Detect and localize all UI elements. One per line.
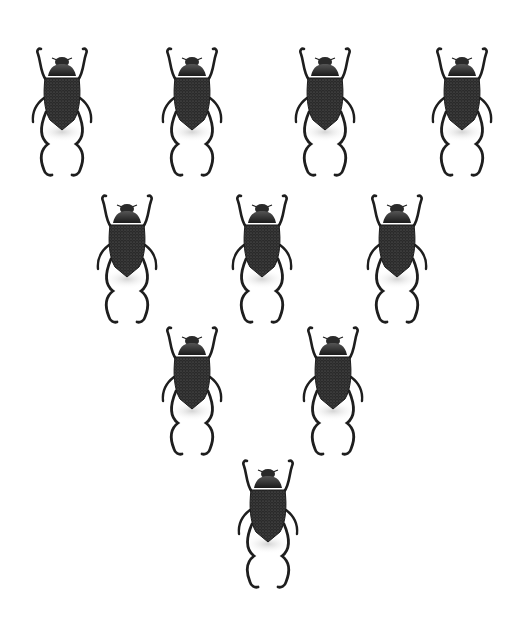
beetle-icon — [361, 193, 433, 325]
beetle-icon — [426, 46, 498, 178]
beetle-icon — [156, 46, 228, 178]
beetle — [361, 193, 433, 325]
beetle-icon — [91, 193, 163, 325]
beetle-icon — [232, 458, 304, 590]
beetle-icon — [156, 325, 228, 457]
beetle — [156, 325, 228, 457]
beetle — [156, 46, 228, 178]
beetle — [297, 325, 369, 457]
beetle-icon — [26, 46, 98, 178]
beetle — [26, 46, 98, 178]
beetle-photo — [0, 0, 526, 623]
beetle — [226, 193, 298, 325]
beetle — [91, 193, 163, 325]
beetle-icon — [297, 325, 369, 457]
beetle — [289, 46, 361, 178]
beetle-icon — [289, 46, 361, 178]
beetle — [426, 46, 498, 178]
beetle — [232, 458, 304, 590]
beetle-icon — [226, 193, 298, 325]
